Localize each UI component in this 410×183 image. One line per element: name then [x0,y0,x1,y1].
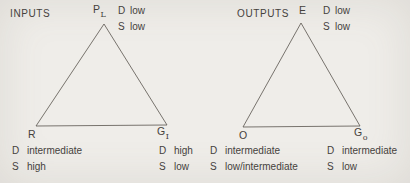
vertex-letter: G [157,125,165,137]
vertex-letter: P [93,3,100,15]
attr-value: high [27,162,46,172]
inputs-title: INPUTS [10,8,50,19]
attr-value: intermediate [342,146,397,156]
attr-row: S high [12,162,82,172]
attr-row: D high [159,146,193,156]
attr-key: D [323,6,335,16]
attr-value: low/intermediate [225,162,298,172]
attr-key: S [12,162,27,172]
attr-row: D low [118,6,145,16]
attr-key: D [118,6,130,16]
attr-row: S low/intermediate [210,162,298,172]
attr-value: low [130,6,145,16]
outputs-bottom-left-label: O [239,130,247,141]
vertex-letter: E [299,4,306,16]
outputs-triangle [243,23,360,127]
outputs-bottom-left-attrs: D intermediate S low/intermediate [210,146,298,178]
attr-value: low [174,162,189,172]
attr-key: S [327,162,342,172]
vertex-subscript: o [363,133,368,142]
attr-key: S [118,22,130,32]
vertex-letter: O [239,129,247,141]
attr-key: D [210,146,225,156]
inputs-triangle [36,24,167,126]
attr-row: D low [323,6,350,16]
attr-row: S low [159,162,193,172]
outputs-bottom-right-attrs: D intermediate S low [327,146,397,178]
vertex-subscript: L [101,10,106,19]
attr-value: intermediate [27,146,82,156]
inputs-bottom-right-label: GI [157,126,168,137]
vertex-subscript: I [166,132,169,141]
inputs-apex-attrs: D low S low [118,6,145,38]
attr-value: intermediate [225,146,280,156]
attr-value: low [130,22,145,32]
attr-key: S [210,162,225,172]
inputs-bottom-left-label: R [28,129,36,140]
outputs-bottom-right-label: Go [354,127,367,138]
attr-key: S [323,22,335,32]
attr-row: D intermediate [327,146,397,156]
outputs-title: OUTPUTS [237,8,289,19]
attr-key: S [159,162,174,172]
outputs-apex-label: E [299,5,306,16]
figure-canvas: INPUTS PL D low S low R D intermediate S… [0,0,410,183]
attr-row: D intermediate [12,146,82,156]
vertex-letter: R [28,128,36,140]
attr-row: D intermediate [210,146,298,156]
attr-row: S low [323,22,350,32]
outputs-apex-attrs: D low S low [323,6,350,38]
inputs-apex-label: PL [93,4,105,15]
inputs-bottom-left-attrs: D intermediate S high [12,146,82,178]
attr-key: D [159,146,174,156]
attr-value: low [335,6,350,16]
attr-value: high [174,146,193,156]
attr-key: D [12,146,27,156]
inputs-bottom-right-attrs: D high S low [159,146,193,178]
attr-value: low [335,22,350,32]
attr-key: D [327,146,342,156]
attr-row: S low [327,162,397,172]
attr-row: S low [118,22,145,32]
vertex-letter: G [354,126,362,138]
attr-value: low [342,162,357,172]
